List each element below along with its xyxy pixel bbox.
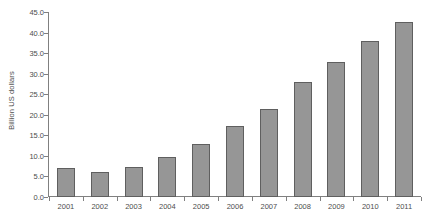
x-axis-tick-label: 2009 (328, 202, 345, 211)
bar (395, 22, 413, 197)
y-axis-tick-label: 20.0 (18, 110, 44, 119)
x-axis-tick-labels: 2001200220032004200520062007200820092010… (49, 202, 421, 216)
y-axis-tick-mark (44, 53, 48, 54)
x-axis-tick-label: 2008 (294, 202, 311, 211)
y-axis-tick-mark (44, 135, 48, 136)
y-axis-tick-mark (44, 115, 48, 116)
x-axis-tick-mark (117, 197, 118, 201)
x-axis-tick-mark (184, 197, 185, 201)
x-axis-tick-label: 2004 (159, 202, 176, 211)
bar (125, 167, 143, 197)
x-axis-tick-label: 2007 (260, 202, 277, 211)
y-axis-tick-labels: 45.040.035.030.025.020.015.010.05.00.0 (18, 0, 44, 223)
bar (226, 126, 244, 197)
y-axis-tick-mark (44, 156, 48, 157)
x-axis-tick-mark (286, 197, 287, 201)
x-axis-tick-mark (49, 197, 50, 201)
x-axis-tick-mark (83, 197, 84, 201)
y-axis-tick-mark (44, 74, 48, 75)
y-axis-tick-mark (44, 12, 48, 13)
x-axis-tick-mark (320, 197, 321, 201)
bar (361, 41, 379, 197)
y-axis-tick-label: 10.0 (18, 151, 44, 160)
y-axis-tick-mark (44, 197, 48, 198)
y-axis-tick-label: 0.0 (18, 193, 44, 202)
x-axis-tick-mark (150, 197, 151, 201)
x-axis-tick-label: 2001 (58, 202, 75, 211)
y-axis-tick-mark (44, 94, 48, 95)
y-axis-tick-label: 40.0 (18, 28, 44, 37)
x-axis-tick-mark (353, 197, 354, 201)
bar (294, 82, 312, 197)
y-axis-tick-label: 25.0 (18, 90, 44, 99)
x-axis-tick-mark (218, 197, 219, 201)
plot-area (49, 12, 421, 197)
x-axis-tick-label: 2005 (193, 202, 210, 211)
bar (327, 62, 345, 197)
y-axis-tick-label: 5.0 (18, 172, 44, 181)
y-axis-tick-label: 15.0 (18, 131, 44, 140)
y-axis-tick-label: 30.0 (18, 69, 44, 78)
bar (57, 168, 75, 197)
x-axis-tick-label: 2002 (91, 202, 108, 211)
bar (158, 157, 176, 197)
bar (192, 144, 210, 197)
y-axis-tick-mark (44, 176, 48, 177)
x-axis-tick-label: 2003 (125, 202, 142, 211)
bar (260, 109, 278, 197)
bar (91, 172, 109, 197)
x-axis-tick-label: 2006 (227, 202, 244, 211)
y-axis-title-label: Billion US dollars (7, 71, 16, 130)
bar-chart: Billion US dollars 45.040.035.030.025.02… (0, 0, 431, 223)
x-axis-tick-mark (252, 197, 253, 201)
x-axis-tick-mark (387, 197, 388, 201)
x-axis-tick-label: 2011 (396, 202, 412, 211)
y-axis-tick-label: 35.0 (18, 49, 44, 58)
x-axis-tick-mark (421, 197, 422, 201)
y-axis-tick-mark (44, 33, 48, 34)
x-axis-tick-label: 2010 (362, 202, 379, 211)
y-axis-tick-label: 45.0 (18, 8, 44, 17)
